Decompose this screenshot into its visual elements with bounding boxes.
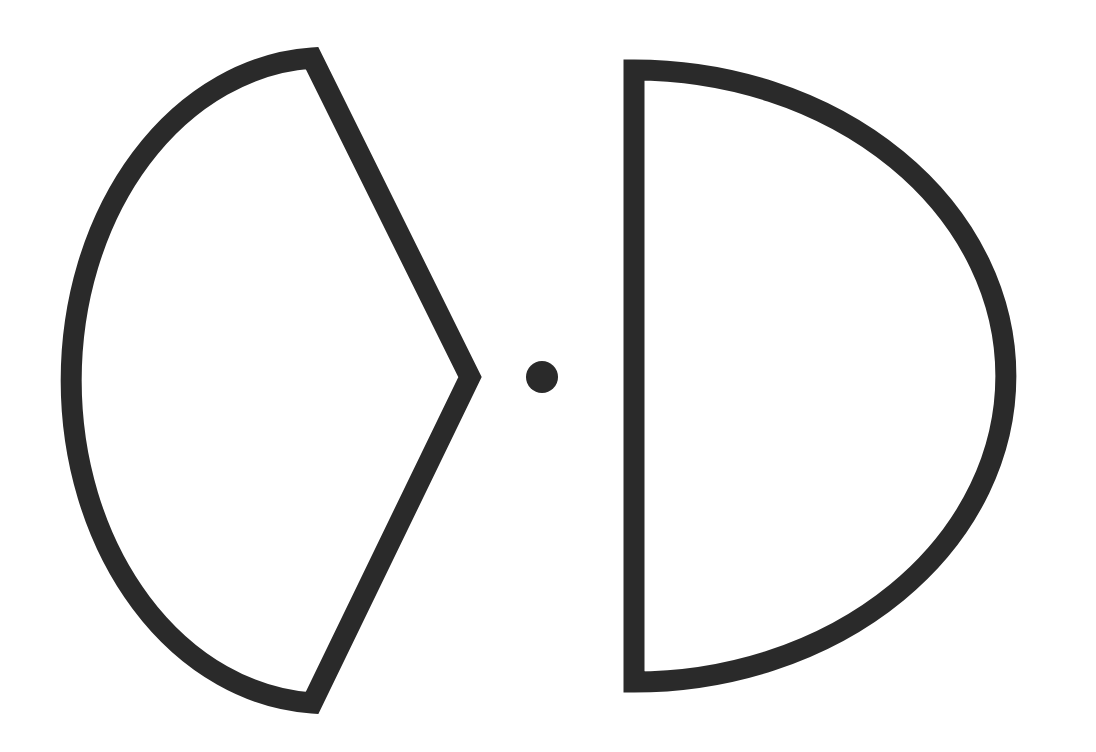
drawing-canvas — [0, 0, 1096, 752]
figure-svg — [0, 0, 1096, 752]
center-dot[interactable] — [526, 361, 558, 393]
